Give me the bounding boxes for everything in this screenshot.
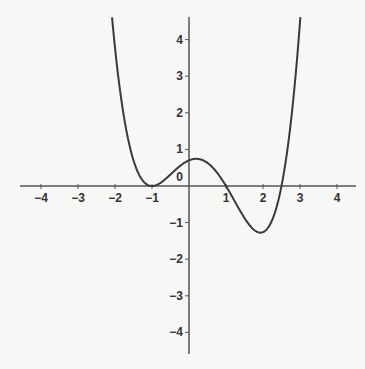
- y-tick-label: 1: [176, 142, 183, 156]
- axes: [20, 17, 356, 354]
- function-curve: [112, 17, 300, 233]
- y-tick-label: −2: [169, 252, 183, 266]
- y-tick-label: 2: [176, 106, 183, 120]
- y-tick-label: 4: [176, 33, 183, 47]
- x-tick-label: −1: [145, 191, 159, 205]
- x-tick-label: 2: [260, 191, 267, 205]
- x-tick-label: 1: [223, 191, 230, 205]
- y-tick-label: −4: [169, 325, 183, 339]
- function-plot: −4−3−2−112344321−1−2−3−40: [0, 0, 365, 369]
- x-tick-label: 4: [334, 191, 341, 205]
- x-tick-label: −4: [34, 191, 48, 205]
- origin-label: 0: [176, 170, 183, 184]
- y-tick-label: −1: [169, 216, 183, 230]
- x-tick-label: 3: [297, 191, 304, 205]
- x-tick-label: −3: [71, 191, 85, 205]
- x-tick-label: −2: [108, 191, 122, 205]
- y-tick-label: 3: [176, 69, 183, 83]
- y-tick-label: −3: [169, 289, 183, 303]
